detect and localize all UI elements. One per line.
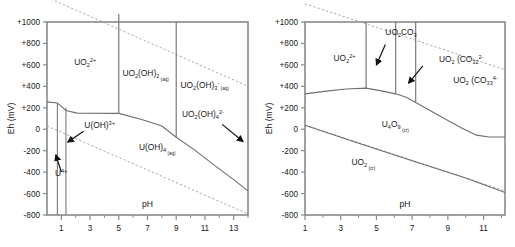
x-axis-title: pH — [142, 199, 153, 209]
species-label-UO2-2plus: UO22+ — [74, 57, 96, 68]
x-tick-label: 11 — [201, 224, 210, 233]
y-tick-label: +200 — [22, 104, 41, 113]
species-label-UO2OH2-aq: UO2(OH)2 (aq) — [122, 68, 169, 82]
y-tick-label: 0 — [293, 125, 298, 134]
species-labels: UO22+UO2(OH)2 (aq)UO2(OH)3- (aq)UO2(OH)4… — [55, 57, 229, 179]
y-tick-label: -800 — [282, 211, 299, 220]
x-tick-label: 9 — [174, 224, 179, 233]
y-axis: +1000+800+600+400+2000-200-400-600-800 — [17, 18, 47, 220]
species-label-UO2-cr: UO2 (cr) — [351, 157, 375, 171]
y-tick-label: -200 — [24, 147, 41, 156]
x-axis: 1357911 — [303, 215, 502, 233]
y-tick-label: -400 — [282, 168, 299, 177]
species-label-UO2-2plus: UO22+ — [334, 53, 356, 64]
y-tick-label: -800 — [24, 211, 41, 220]
y-tick-label: 0 — [35, 125, 40, 134]
species-label-UO2CO3: UO2CO3 — [385, 27, 416, 38]
x-tick-label: 3 — [338, 224, 343, 233]
x-axis: 135791113 — [59, 215, 248, 233]
arrow-to-uo2oh4 — [222, 124, 243, 141]
y-axis-title: Eh (mV) — [6, 103, 16, 135]
species-label-UO2-CO3-3-4minus: UO2 (CO334- — [453, 75, 498, 86]
y-tick-label: +600 — [280, 61, 299, 70]
x-tick-label: 3 — [88, 224, 93, 233]
y-tick-label: +1000 — [275, 18, 298, 27]
x-axis-title: pH — [400, 199, 411, 209]
y-axis: +1000+800+600+400+2000-200-400-600-800 — [275, 18, 305, 220]
axis-frame — [305, 22, 505, 215]
y-tick-label: +1000 — [17, 18, 40, 27]
y-tick-label: +200 — [280, 104, 299, 113]
phase-boundary-line — [305, 125, 505, 192]
x-tick-label: 13 — [229, 224, 239, 233]
y-tick-label: -200 — [282, 147, 299, 156]
x-tick-label: 5 — [374, 224, 379, 233]
plot-right: +1000+800+600+400+2000-200-400-600-80013… — [258, 0, 515, 247]
figure-root: +1000+800+600+400+2000-200-400-600-80013… — [0, 0, 515, 247]
species-label-UO2-CO3-2-2minus: UO2 (CO322- — [439, 54, 484, 65]
y-tick-label: +400 — [280, 82, 299, 91]
x-tick-label: 5 — [117, 224, 122, 233]
y-tick-label: +400 — [22, 82, 41, 91]
y-tick-label: +800 — [22, 39, 41, 48]
pourbaix-panel-right: +1000+800+600+400+2000-200-400-600-80013… — [258, 0, 515, 247]
x-tick-label: 7 — [410, 224, 415, 233]
species-label-UOH4-aq: U(OH)4 (aq) — [139, 142, 176, 156]
arrow-to-uo2co3 — [376, 45, 385, 65]
y-tick-label: -400 — [24, 168, 41, 177]
species-label-UO2OH4-2minus-aq: UO2(OH)42- — [182, 109, 224, 120]
y-tick-label: +600 — [22, 61, 41, 70]
species-label-UOH-3plus: U(OH)3+ — [84, 120, 115, 130]
y-tick-label: -600 — [24, 190, 41, 199]
pourbaix-panel-left: +1000+800+600+400+2000-200-400-600-80013… — [0, 0, 257, 247]
plot-left: +1000+800+600+400+2000-200-400-600-80013… — [0, 0, 257, 247]
species-label-UO2OH3-minus-aq: UO2(OH)3- (aq) — [181, 80, 230, 91]
x-tick-label: 7 — [145, 224, 150, 233]
x-tick-label: 9 — [446, 224, 451, 233]
y-tick-label: +800 — [280, 39, 299, 48]
x-tick-label: 11 — [479, 224, 488, 233]
y-axis-title: Eh (mV) — [264, 103, 274, 135]
x-tick-label: 1 — [59, 224, 64, 233]
species-label-U4O9-cr: U4O9 (cr) — [382, 119, 409, 133]
y-tick-label: -600 — [282, 190, 299, 199]
phase-boundaries — [47, 0, 248, 215]
x-tick-label: 1 — [303, 224, 308, 233]
